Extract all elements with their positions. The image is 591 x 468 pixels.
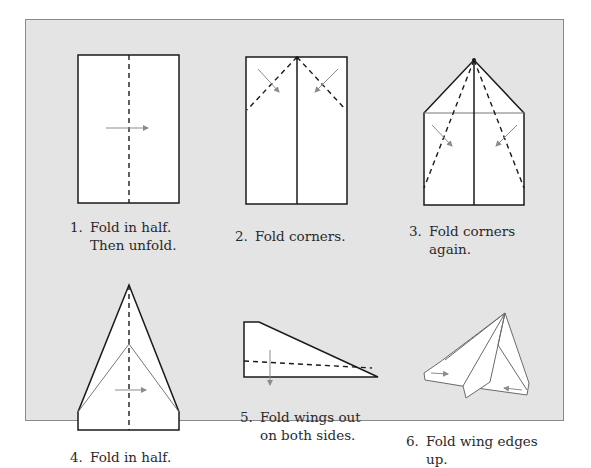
step-number: 6. (406, 432, 426, 468)
step-1-label: 1. Fold in half. Then unfold. (70, 218, 176, 254)
step-5-diagram (244, 322, 378, 385)
step-2-label: 2. Fold corners. (235, 227, 346, 245)
step-number: 5. (240, 408, 260, 444)
step-1-diagram (78, 55, 179, 203)
step-4-diagram (78, 285, 179, 430)
step-instruction: Fold in half. Then unfold. (90, 218, 176, 254)
step-number: 3. (409, 222, 429, 258)
step-3-diagram (424, 58, 524, 205)
step-6-label: 6. Fold wing edges up. (406, 432, 538, 468)
step-4-label: 4. Fold in half. (70, 448, 171, 466)
step-3-label: 3. Fold corners again. (409, 222, 515, 258)
step-instruction: Fold wing edges up. (426, 432, 538, 468)
step-instruction: Fold wings out on both sides. (260, 408, 361, 444)
step-instruction: Fold in half. (90, 448, 171, 466)
step-number: 2. (235, 227, 255, 245)
step-instruction: Fold corners again. (429, 222, 515, 258)
step-2-diagram (246, 56, 347, 204)
step-number: 1. (70, 218, 90, 254)
step-instruction: Fold corners. (255, 227, 346, 245)
step-5-label: 5. Fold wings out on both sides. (240, 408, 361, 444)
step-6-diagram (424, 313, 529, 398)
step-number: 4. (70, 448, 90, 466)
